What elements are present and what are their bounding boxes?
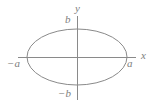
ellipse-left-vertex-label: −a — [7, 58, 20, 69]
ellipse-diagram-canvas — [0, 0, 158, 108]
ellipse-bottom-vertex-label: −b — [58, 88, 71, 99]
ellipse-figure: y b x a −a −b — [0, 0, 158, 108]
x-axis-label: x — [141, 50, 146, 61]
ellipse-right-vertex-label: a — [127, 58, 133, 69]
ellipse-top-vertex-label: b — [65, 14, 71, 25]
y-axis-label: y — [75, 3, 80, 14]
